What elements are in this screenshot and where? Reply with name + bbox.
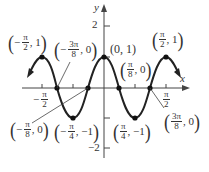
label-neg-pi4-neg1: (− π4, −1) (54, 122, 99, 141)
leader-neg-3pi8 (57, 62, 70, 88)
label-pi4-neg1: (π4, −1) (113, 122, 151, 141)
x-axis-label: x (180, 73, 185, 84)
y-axis-arrow-icon (101, 4, 107, 12)
y-tick-label-neg2: −2 (88, 142, 100, 153)
y-axis-label: y (94, 2, 99, 13)
label-pi2-1: (π2, 1) (152, 30, 184, 49)
label-neg-pi8-0: (− π8, 0) (10, 120, 49, 139)
label-pi8-0: (π8, 0) (120, 60, 152, 79)
label-neg-pi2-1: (− π2, 1) (8, 33, 47, 52)
point-neg-pi2-1 (39, 54, 44, 59)
point-pi4-neg1 (132, 115, 137, 120)
point-0-1 (101, 54, 106, 59)
label-neg-3pi8-0: (− 3π8, 0) (54, 40, 97, 59)
label-3pi8-0: (3π8, 0) (164, 112, 200, 131)
x-tick-label-pi2: π2 (162, 90, 171, 109)
graph-canvas (0, 0, 209, 172)
x-tick-label-neg-pi2: − π2 (33, 90, 49, 109)
point-pi2-1 (163, 54, 168, 59)
x-axis-arrow-icon (182, 85, 190, 91)
y-tick-label-2: 2 (92, 19, 98, 30)
point-neg-pi4-neg1 (70, 115, 75, 120)
label-0-1: (0, 1) (110, 43, 136, 55)
point-pi8-0 (116, 85, 121, 90)
curve-left-arrow-icon (27, 68, 34, 78)
